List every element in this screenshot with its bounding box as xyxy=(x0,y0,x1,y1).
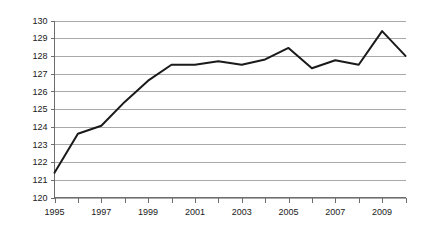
y-axis-tick-labels: 120121122123124125126127128129130 xyxy=(32,16,54,203)
chart-canvas: 120121122123124125126127128129130 199519… xyxy=(0,0,421,236)
x-axis-tick-labels: 19951997199920012003200520072009 xyxy=(44,207,392,217)
gridlines xyxy=(55,22,406,199)
x-tick-label: 2005 xyxy=(278,207,298,217)
y-tick-label: 129 xyxy=(32,33,47,43)
y-tick-label: 124 xyxy=(32,122,47,132)
x-tick-label: 1999 xyxy=(138,207,158,217)
data-series xyxy=(55,31,406,173)
x-tick-label: 2009 xyxy=(372,207,392,217)
y-tick-label: 123 xyxy=(32,140,47,150)
y-tick-label: 127 xyxy=(32,69,47,79)
x-tick-label: 1997 xyxy=(91,207,111,217)
y-tick-label: 120 xyxy=(32,193,47,203)
y-tick-label: 121 xyxy=(32,175,47,185)
line-chart: 120121122123124125126127128129130 199519… xyxy=(0,0,421,236)
x-tick-label: 2001 xyxy=(185,207,205,217)
y-tick-label: 130 xyxy=(32,16,47,26)
y-tick-label: 122 xyxy=(32,157,47,167)
series-line-0 xyxy=(55,31,406,173)
y-tick-label: 126 xyxy=(32,87,47,97)
y-tick-label: 125 xyxy=(32,104,47,114)
y-tick-label: 128 xyxy=(32,51,47,61)
x-tick-label: 1995 xyxy=(44,207,64,217)
x-tick-label: 2007 xyxy=(325,207,345,217)
x-tick-label: 2003 xyxy=(232,207,252,217)
